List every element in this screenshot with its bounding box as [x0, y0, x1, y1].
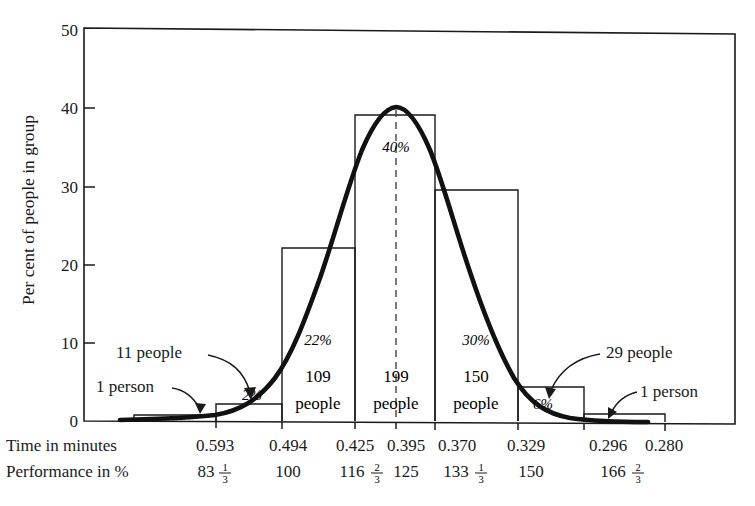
leader-29-people [551, 354, 600, 390]
y-tick-marks [84, 108, 95, 343]
x-time-label-4: 0.370 [438, 436, 476, 455]
leader-1-person-right [611, 392, 637, 413]
x-time-label-3: 0.395 [387, 436, 425, 455]
x-perf-fraction-0: 1 3 [219, 462, 231, 485]
x-perf-label-4: 133 [443, 462, 469, 481]
annotation-1-person-right: 1 person [640, 382, 699, 401]
svg-text:3: 3 [374, 474, 379, 485]
arrowhead-1-person-left [195, 403, 206, 414]
bar-30-percent [435, 190, 518, 421]
leader-1-person-left [172, 388, 200, 409]
y-tick-label-40: 40 [61, 99, 78, 118]
x-perf-label-6: 166 [600, 462, 626, 481]
x-perf-fraction-2: 2 3 [371, 462, 383, 485]
x-time-label-0: 0.593 [196, 436, 234, 455]
x-perf-label-2: 116 [340, 462, 365, 481]
bar-unit-150: people [453, 394, 498, 413]
bar-label-30-percent: 30% [461, 332, 490, 348]
svg-text:1: 1 [478, 462, 483, 473]
y-tick-label-50: 50 [61, 21, 78, 40]
x-time-label-1: 0.494 [269, 436, 308, 455]
bar-count-109: 109 [305, 367, 331, 386]
x-axis-row1-name: Time in minutes [6, 436, 117, 455]
x-perf-label-0: 83 [198, 462, 215, 481]
bar-label-40-percent: 40% [382, 139, 410, 155]
x-perf-label-1: 100 [275, 462, 301, 481]
bar-unit-199: people [373, 394, 418, 413]
x-perf-fraction-6: 2 3 [632, 462, 644, 485]
normal-distribution-chart: Per cent of people in group 50 40 30 20 … [0, 0, 755, 506]
bar-unit-109: people [295, 394, 340, 413]
svg-text:2: 2 [374, 462, 379, 473]
bar-count-150: 150 [463, 367, 489, 386]
x-axis-row2-name: Performance in % [6, 462, 129, 481]
y-tick-label-30: 30 [61, 178, 78, 197]
svg-text:2: 2 [635, 462, 640, 473]
annotation-1-person-left: 1 person [96, 377, 155, 396]
y-axis-title: Per cent of people in group [18, 115, 38, 305]
x-time-label-7: 0.280 [645, 436, 683, 455]
x-perf-label-3: 125 [393, 462, 419, 481]
bar-count-199: 199 [383, 367, 409, 386]
bar-label-22-percent: 22% [304, 332, 332, 348]
y-tick-label-0: 0 [70, 412, 79, 431]
y-tick-label-20: 20 [61, 256, 78, 275]
plot-frame [84, 28, 735, 424]
svg-text:3: 3 [222, 474, 227, 485]
bar-label-6-percent: 6% [533, 396, 553, 412]
svg-text:1: 1 [222, 462, 227, 473]
chart-figure: Per cent of people in group 50 40 30 20 … [0, 0, 755, 506]
y-tick-label-10: 10 [61, 334, 78, 353]
x-time-label-5: 0.329 [507, 436, 545, 455]
x-time-label-2: 0.425 [336, 436, 374, 455]
annotation-29-people: 29 people [606, 343, 673, 362]
svg-text:3: 3 [635, 474, 640, 485]
svg-text:3: 3 [478, 474, 483, 485]
annotation-11-people: 11 people [116, 343, 182, 362]
x-perf-fraction-4: 1 3 [475, 462, 487, 485]
x-time-label-6: 0.296 [589, 436, 627, 455]
x-perf-label-5: 150 [518, 462, 544, 481]
